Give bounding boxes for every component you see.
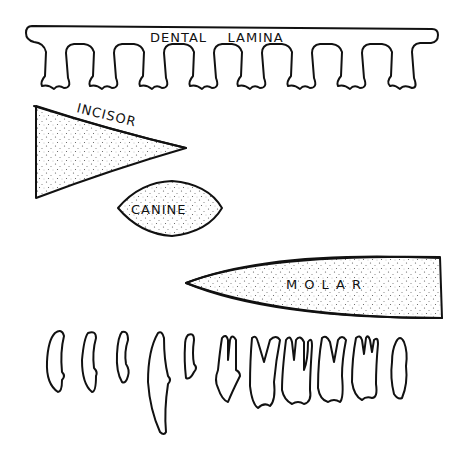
tooth-incisor-2 [82,332,97,392]
molar-label: MOLAR [286,277,368,292]
canine-label: CANINE [131,202,186,217]
dental-lamina: DENTAL LAMINA [26,26,438,89]
tooth-premolar-2 [216,336,240,402]
tooth-premolar-1 [185,334,196,378]
tooth-canine [148,332,170,434]
teeth-row [47,331,407,434]
canine-shape: CANINE [118,181,222,236]
dental-lamina-label: DENTAL LAMINA [150,30,284,45]
tooth-molar-2 [282,337,312,404]
tooth-molar-3 [318,337,346,402]
tooth-molar-5 [391,338,406,399]
tooth-molar-1 [250,337,280,408]
molar-shape: MOLAR [186,256,442,318]
tooth-molar-4 [352,336,378,400]
tooth-incisor-3 [117,332,129,383]
tooth-incisor-1 [47,331,64,392]
dental-development-diagram: DENTAL LAMINA INCISOR CANINE MOLAR [0,0,460,456]
